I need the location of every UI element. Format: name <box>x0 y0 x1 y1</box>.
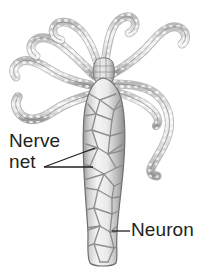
body-column <box>82 78 126 266</box>
label-nerve-net-line1: Nerve <box>9 130 60 151</box>
label-neuron: Neuron <box>131 219 194 240</box>
label-nerve-net-line2: net <box>9 151 36 172</box>
tentacle-left-lower <box>16 95 92 119</box>
hydra-nerve-net-figure: Nerve net Neuron <box>0 0 205 274</box>
tentacle-right-upper <box>112 27 186 74</box>
